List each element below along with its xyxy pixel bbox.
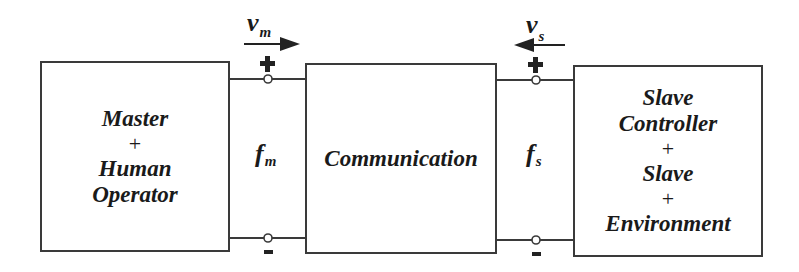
master-minus-sign-icon: [264, 250, 273, 254]
master-block: Master + Human Operator: [41, 62, 229, 251]
master-velocity-label: vm: [247, 8, 270, 38]
slave-line-1: Slave: [642, 85, 693, 111]
master-line-3: Human: [99, 156, 172, 182]
master-line-4: Operator: [92, 182, 178, 208]
master-minus-terminal: [264, 234, 272, 242]
slave-line-5: +: [662, 187, 674, 211]
master-line-1: Master: [102, 106, 168, 132]
slave-plus-terminal: [532, 76, 540, 84]
master-force-label: fm: [255, 139, 275, 169]
slave-block: Slave Controller + Slave + Environment: [574, 66, 762, 256]
master-plus-terminal: [264, 75, 272, 83]
communication-label: Communication: [324, 146, 477, 172]
master-line-2: +: [129, 132, 141, 156]
master-plus-sign-icon: [260, 56, 275, 72]
slave-line-3: +: [662, 137, 674, 161]
slave-line-6: Environment: [605, 211, 730, 237]
slave-plus-sign-icon: [528, 57, 543, 73]
communication-block: Communication: [306, 64, 496, 253]
slave-force-label: fs: [526, 139, 541, 169]
slave-minus-sign-icon: [532, 252, 541, 256]
slave-minus-terminal: [532, 236, 540, 244]
slave-line-4: Slave: [642, 161, 693, 187]
slave-line-2: Controller: [619, 111, 717, 137]
arrow-right-icon: [244, 37, 300, 51]
slave-velocity-label: vs: [526, 10, 543, 40]
